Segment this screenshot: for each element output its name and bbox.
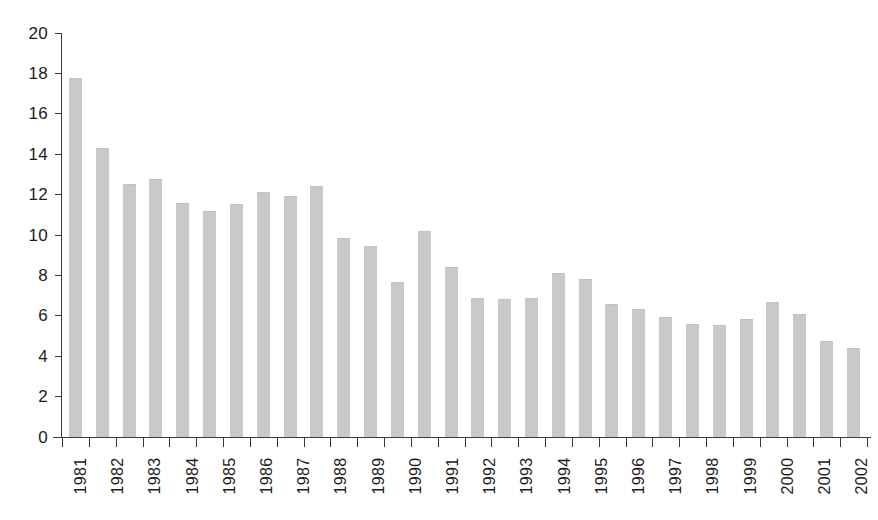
bar (391, 282, 404, 437)
x-axis-tick-mark (411, 438, 412, 447)
x-label-slot: 2001 (806, 449, 843, 515)
x-axis-labels: 1981198219831984198519861987198819891990… (62, 449, 867, 515)
x-axis-tick-label: 1995 (593, 457, 609, 494)
x-axis-tick-mark (733, 438, 734, 447)
x-axis-tick-mark (438, 438, 439, 447)
bar (713, 325, 726, 437)
bar-slot (625, 33, 652, 437)
x-axis-tick-label: 1990 (407, 457, 423, 494)
x-label-slot: 1997 (657, 449, 694, 515)
plot-area (62, 33, 867, 437)
x-label-slot: 1983 (136, 449, 173, 515)
bar (579, 279, 592, 437)
x-axis-tick-label: 1985 (221, 457, 237, 494)
bar-slot (411, 33, 438, 437)
x-axis-tick-mark (840, 438, 841, 447)
x-axis-tick-mark (89, 438, 90, 447)
x-axis-tick-label: 1994 (556, 457, 572, 494)
x-axis-tick-mark (572, 438, 573, 447)
bar (632, 309, 645, 437)
x-axis-tick-label: 2001 (817, 457, 833, 494)
x-axis-tick-mark (679, 438, 680, 447)
x-label-slot: 1982 (99, 449, 136, 515)
bar-slot (733, 33, 760, 437)
y-axis-tick-label: 10 (28, 227, 55, 244)
bar (337, 238, 350, 437)
bar (525, 298, 538, 437)
bar-slot (679, 33, 706, 437)
bar-slot (223, 33, 250, 437)
bar-slot (652, 33, 679, 437)
x-axis-tick-mark (491, 438, 492, 447)
x-label-slot: 1990 (397, 449, 434, 515)
bar-slot (303, 33, 330, 437)
x-label-slot: 1981 (62, 449, 99, 515)
x-label-slot: 1986 (248, 449, 285, 515)
x-axis-tick-label: 1986 (259, 457, 275, 494)
bar-chart: 02468101214161820 1981198219831984198519… (0, 0, 878, 520)
x-label-slot: 1994 (546, 449, 583, 515)
bar-slot (464, 33, 491, 437)
bar-slot (330, 33, 357, 437)
bar (69, 78, 82, 437)
x-axis-tick-mark (545, 438, 546, 447)
x-axis-tick-mark (760, 438, 761, 447)
y-axis-tick-label: 20 (28, 25, 55, 42)
bar-slot (840, 33, 867, 437)
x-axis-tick-mark (143, 438, 144, 447)
bar (471, 298, 484, 437)
bar (418, 231, 431, 437)
bar (176, 203, 189, 437)
bar (820, 341, 833, 437)
bar-slot (62, 33, 89, 437)
bar-slot (545, 33, 572, 437)
x-axis-tick-label: 1992 (482, 457, 498, 494)
x-label-slot: 1989 (360, 449, 397, 515)
x-axis-tick-mark (867, 438, 868, 447)
x-axis-tick-mark (813, 438, 814, 447)
x-axis-tick-mark (706, 438, 707, 447)
x-axis-tick-mark (599, 438, 600, 447)
x-label-slot: 1985 (211, 449, 248, 515)
y-axis-tick-label: 14 (28, 146, 55, 163)
bar (230, 204, 243, 437)
x-axis-tick-mark (652, 438, 653, 447)
x-label-slot: 1999 (732, 449, 769, 515)
x-axis-tick-label: 1999 (742, 457, 758, 494)
bar (123, 184, 136, 438)
bar-slot (518, 33, 545, 437)
x-axis-tick-mark (277, 438, 278, 447)
x-axis-tick-label: 1982 (110, 457, 126, 494)
x-axis-tick-label: 1984 (184, 457, 200, 494)
bar-slot (277, 33, 304, 437)
x-label-slot: 1993 (508, 449, 545, 515)
x-axis-tick-mark (169, 438, 170, 447)
bar-slot (142, 33, 169, 437)
bar-slot (384, 33, 411, 437)
bar (445, 267, 458, 437)
y-axis-tick-label: 16 (28, 105, 55, 122)
x-label-slot: 1984 (174, 449, 211, 515)
x-axis-tick-label: 2000 (779, 457, 795, 494)
x-axis-tick-mark (116, 438, 117, 447)
x-axis-tick-mark (787, 438, 788, 447)
y-axis-tick-label: 12 (28, 186, 55, 203)
bar (605, 304, 618, 437)
bar-slot (813, 33, 840, 437)
x-axis-tick-mark (626, 438, 627, 447)
x-label-slot: 1992 (471, 449, 508, 515)
bar (364, 246, 377, 437)
x-axis-tick-mark (223, 438, 224, 447)
bar-slot (786, 33, 813, 437)
bar-slot (438, 33, 465, 437)
x-axis-tick-mark (384, 438, 385, 447)
bar (659, 317, 672, 437)
x-label-slot: 2000 (769, 449, 806, 515)
x-axis-tick-label: 1993 (519, 457, 535, 494)
bars-layer (62, 33, 867, 437)
x-axis-tick-label: 1991 (445, 457, 461, 494)
bar (149, 179, 162, 437)
x-axis-tick-mark (304, 438, 305, 447)
bar (686, 324, 699, 437)
y-axis-tick-label: 18 (28, 65, 55, 82)
